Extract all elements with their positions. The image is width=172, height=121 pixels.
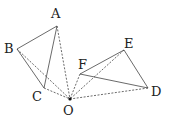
segment-AB [17, 26, 57, 49]
segment-AC [44, 26, 57, 88]
label-A: A [51, 7, 60, 20]
label-F: F [78, 58, 87, 71]
label-O: O [63, 104, 74, 117]
segment-DO [70, 88, 148, 99]
label-B: B [4, 42, 14, 55]
segment-ED [124, 50, 148, 88]
segment-BO [17, 49, 70, 99]
geometry-diagram: A B C O F E D [0, 0, 172, 121]
point-O-dot [68, 97, 71, 100]
segment-FO [70, 74, 80, 99]
segment-BC [17, 49, 44, 88]
label-D: D [151, 85, 161, 98]
segment-CO [44, 88, 70, 99]
label-C: C [32, 90, 42, 103]
label-E: E [124, 37, 134, 50]
